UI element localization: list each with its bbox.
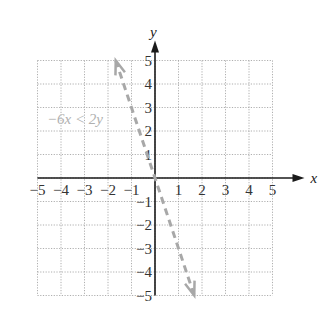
y-tick-label: −1 [136,194,152,210]
y-tick-label: 2 [145,123,153,139]
x-tick-label: −3 [77,182,93,198]
x-tick-label: 5 [269,182,277,198]
y-tick-label: −2 [136,217,152,233]
x-tick-label: −4 [53,182,69,198]
y-tick-label: −4 [136,264,152,280]
x-tick-label: 2 [198,182,206,198]
axes [38,41,305,296]
y-tick-label: −3 [136,241,152,257]
x-axis-arrow-icon [293,174,305,182]
inequality-label: −6x < 2y [47,111,103,127]
x-tick-label: −2 [100,182,116,198]
x-tick-label: −5 [30,182,46,198]
y-tick-label: 4 [145,76,153,92]
y-axis-arrow-icon [151,41,159,53]
y-tick-label: 5 [145,53,153,69]
x-axis-label: x [310,170,318,186]
x-tick-label: 3 [222,182,230,198]
y-tick-label: 3 [145,100,153,116]
y-axis-label: y [148,24,157,40]
coordinate-plane: −5−4−3−2−11234554321−1−2−3−4−5 −6x < 2y … [0,0,318,316]
x-tick-label: 1 [175,182,183,198]
y-tick-label: −5 [136,288,152,304]
x-tick-label: 4 [245,182,253,198]
